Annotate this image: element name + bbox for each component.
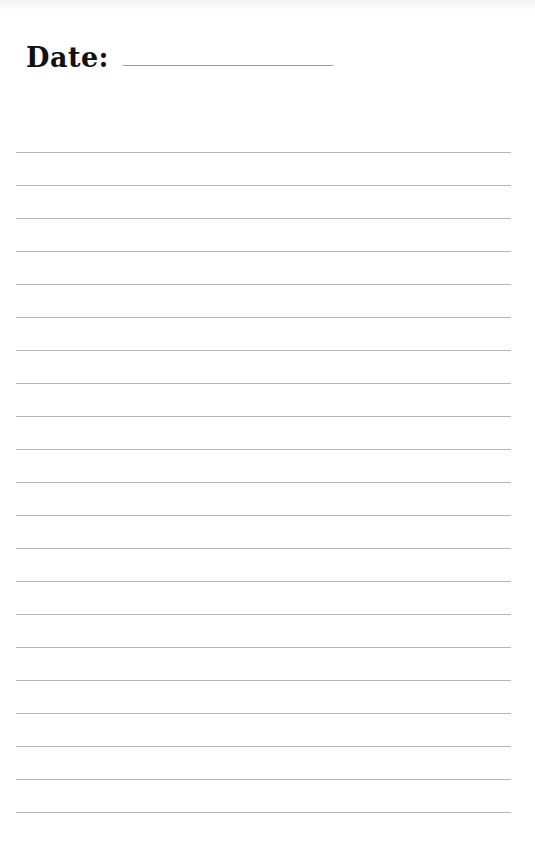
writing-line[interactable] bbox=[16, 350, 511, 351]
writing-line[interactable] bbox=[16, 251, 511, 252]
writing-line[interactable] bbox=[16, 185, 511, 186]
writing-line[interactable] bbox=[16, 614, 511, 615]
date-label: Date: bbox=[26, 44, 109, 71]
writing-line[interactable] bbox=[16, 746, 511, 747]
writing-line[interactable] bbox=[16, 680, 511, 681]
date-row: Date: bbox=[26, 44, 333, 71]
date-field[interactable] bbox=[123, 65, 333, 66]
writing-line[interactable] bbox=[16, 812, 511, 813]
writing-line[interactable] bbox=[16, 713, 511, 714]
writing-line[interactable] bbox=[16, 383, 511, 384]
writing-line[interactable] bbox=[16, 218, 511, 219]
writing-line[interactable] bbox=[16, 482, 511, 483]
writing-line[interactable] bbox=[16, 647, 511, 648]
writing-line[interactable] bbox=[16, 449, 511, 450]
writing-line[interactable] bbox=[16, 779, 511, 780]
writing-line[interactable] bbox=[16, 284, 511, 285]
writing-line[interactable] bbox=[16, 152, 511, 153]
writing-line[interactable] bbox=[16, 581, 511, 582]
writing-line[interactable] bbox=[16, 515, 511, 516]
writing-line[interactable] bbox=[16, 548, 511, 549]
writing-line[interactable] bbox=[16, 416, 511, 417]
writing-line[interactable] bbox=[16, 317, 511, 318]
scan-edge bbox=[0, 0, 535, 10]
